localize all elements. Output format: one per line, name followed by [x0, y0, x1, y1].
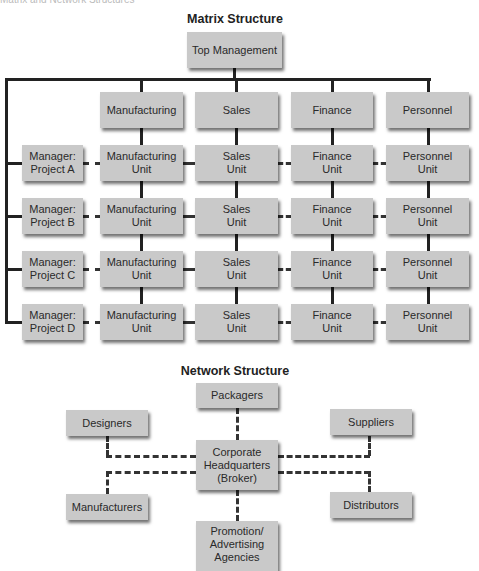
- dashed-connector: [373, 162, 386, 165]
- unit-box: Finance Unit: [291, 251, 373, 287]
- unit-box: Manufacturing Unit: [100, 304, 183, 340]
- dashed-connector: [278, 268, 291, 271]
- department-sales: Sales: [195, 92, 278, 128]
- dashed-connector: [83, 268, 101, 271]
- dashed-connector: [106, 455, 196, 458]
- dashed-connector: [278, 215, 291, 218]
- dashed-connector: [83, 321, 101, 324]
- manager-project-b: Manager: Project B: [22, 198, 83, 234]
- dashed-connector: [373, 321, 386, 324]
- dashed-connector: [106, 436, 109, 456]
- manager-project-c: Manager: Project C: [22, 251, 83, 287]
- dashed-connector: [183, 268, 195, 271]
- node-packagers: Packagers: [196, 383, 278, 408]
- dashed-connector: [106, 471, 196, 474]
- manager-project-d: Manager: Project D: [22, 304, 83, 340]
- node-manufacturers: Manufacturers: [66, 494, 148, 520]
- connector-line: [5, 78, 431, 81]
- unit-box: Personnel Unit: [386, 304, 469, 340]
- dashed-connector: [83, 162, 101, 165]
- unit-box: Manufacturing Unit: [100, 251, 183, 287]
- network-title: Network Structure: [160, 364, 310, 378]
- dashed-connector: [373, 215, 386, 218]
- unit-box: Personnel Unit: [386, 251, 469, 287]
- unit-box: Manufacturing Unit: [100, 198, 183, 234]
- unit-box: Finance Unit: [291, 198, 373, 234]
- unit-box: Sales Unit: [195, 145, 278, 181]
- dashed-connector: [183, 162, 195, 165]
- department-finance: Finance: [291, 92, 373, 128]
- dashed-connector: [183, 321, 195, 324]
- node-corporate-headquarters: Corporate Headquarters (Broker): [196, 440, 278, 490]
- dashed-connector: [106, 471, 109, 494]
- dashed-connector: [278, 321, 291, 324]
- unit-box: Sales Unit: [195, 251, 278, 287]
- unit-box: Personnel Unit: [386, 198, 469, 234]
- dashed-connector: [278, 471, 370, 474]
- node-distributors: Distributors: [330, 492, 412, 518]
- connector-line: [5, 268, 23, 271]
- unit-box: Personnel Unit: [386, 145, 469, 181]
- unit-box: Finance Unit: [291, 304, 373, 340]
- department-personnel: Personnel: [386, 92, 469, 128]
- unit-box: Manufacturing Unit: [100, 145, 183, 181]
- dashed-connector: [83, 215, 101, 218]
- connector-line: [5, 215, 23, 218]
- dashed-connector: [368, 436, 371, 456]
- department-manufacturing: Manufacturing: [100, 92, 183, 128]
- unit-box: Finance Unit: [291, 145, 373, 181]
- node-suppliers: Suppliers: [330, 409, 412, 435]
- top-management-box: Top Management: [187, 32, 282, 68]
- dashed-connector: [183, 215, 195, 218]
- dashed-connector: [236, 408, 239, 440]
- dashed-connector: [278, 162, 291, 165]
- connector-line: [5, 162, 23, 165]
- matrix-title: Matrix Structure: [160, 12, 310, 26]
- node-promotion-advertising: Promotion/ Advertising Agencies: [196, 521, 278, 571]
- dashed-connector: [236, 490, 239, 521]
- connector-line: [5, 78, 8, 324]
- connector-line: [5, 321, 23, 324]
- unit-box: Sales Unit: [195, 198, 278, 234]
- dashed-connector: [373, 268, 386, 271]
- node-designers: Designers: [66, 410, 148, 436]
- dashed-connector: [278, 455, 370, 458]
- dashed-connector: [368, 471, 371, 492]
- clipped-heading: Matrix and Network Structures: [0, 0, 135, 5]
- manager-project-a: Manager: Project A: [22, 145, 83, 181]
- unit-box: Sales Unit: [195, 304, 278, 340]
